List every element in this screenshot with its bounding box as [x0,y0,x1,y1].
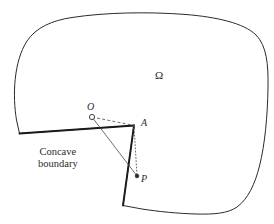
point-label-a: A [141,117,147,128]
geometry-diagram [0,0,274,224]
point-label-p: P [141,173,147,184]
caption-line-2: boundary [38,158,78,170]
caption-line-1: Concave [38,146,78,158]
domain-symbol-omega: Ω [155,69,163,81]
figure-canvas: Ω O A P Concave boundary [0,0,274,224]
caption-concave-boundary: Concave boundary [38,146,78,170]
point-marker-p [135,174,139,178]
point-marker-o [89,114,94,119]
point-label-o: O [87,101,94,112]
